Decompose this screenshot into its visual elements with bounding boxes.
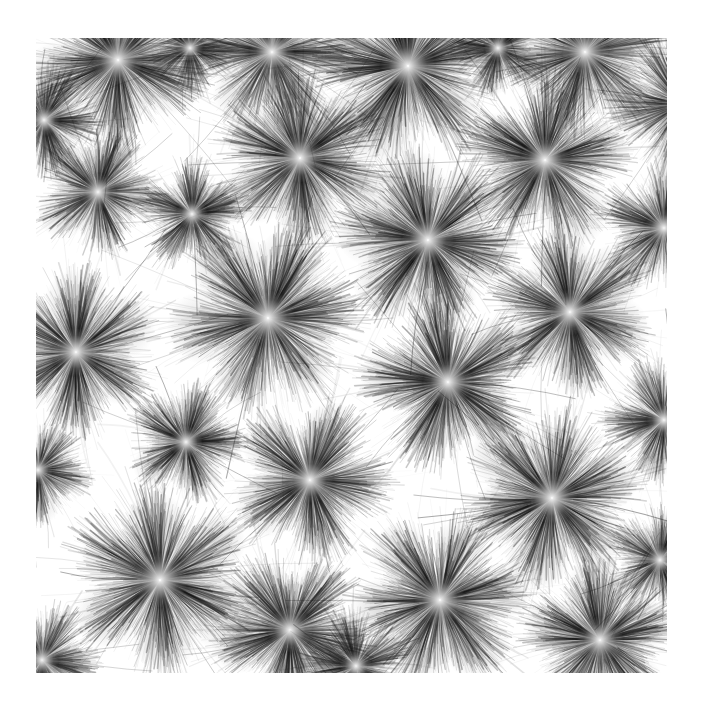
- generative-burst-artwork: [0, 0, 703, 709]
- artwork-canvas-container: [0, 0, 703, 709]
